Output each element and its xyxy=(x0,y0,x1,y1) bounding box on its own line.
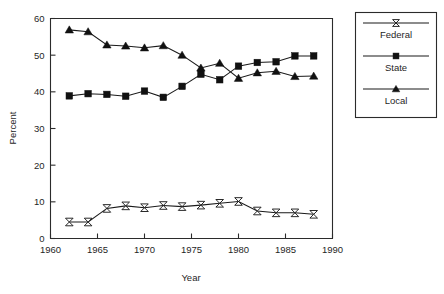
legend-label: Local xyxy=(385,95,408,106)
marker-square xyxy=(292,53,299,60)
x-tick-label: 1975 xyxy=(181,244,202,255)
y-tick-label: 20 xyxy=(34,160,45,171)
x-tick-label: 1980 xyxy=(228,244,249,255)
marker-square xyxy=(393,53,399,59)
marker-square xyxy=(85,90,92,97)
legend-label: State xyxy=(385,62,407,73)
marker-square xyxy=(198,71,205,78)
legend-label: Federal xyxy=(380,29,412,40)
x-tick-label: 1965 xyxy=(87,244,108,255)
y-tick-label: 10 xyxy=(34,196,45,207)
marker-square xyxy=(216,76,223,83)
y-axis-title: Percent xyxy=(7,111,18,144)
marker-square xyxy=(235,63,242,70)
legend: FederalStateLocal xyxy=(356,13,437,118)
x-axis-title: Year xyxy=(181,272,200,283)
y-tick-label: 0 xyxy=(39,233,44,244)
marker-square xyxy=(254,59,261,66)
line-chart: 0102030405060 19601965197019751980198519… xyxy=(0,0,444,294)
x-tick-label: 1990 xyxy=(322,244,343,255)
marker-square xyxy=(122,93,129,100)
marker-square xyxy=(179,83,186,90)
marker-square xyxy=(141,88,148,95)
x-tick-label: 1960 xyxy=(40,244,61,255)
marker-square xyxy=(66,93,73,100)
x-tick-label: 1970 xyxy=(134,244,155,255)
marker-square xyxy=(273,58,280,65)
y-tick-label: 40 xyxy=(34,86,45,97)
chart-figure: 0102030405060 19601965197019751980198519… xyxy=(0,0,444,294)
marker-square xyxy=(160,94,167,101)
marker-square xyxy=(104,91,111,98)
y-tick-label: 30 xyxy=(34,123,45,134)
marker-square xyxy=(310,53,317,60)
y-tick-label: 50 xyxy=(34,50,45,61)
x-tick-label: 1985 xyxy=(275,244,296,255)
y-tick-label: 60 xyxy=(34,13,45,24)
